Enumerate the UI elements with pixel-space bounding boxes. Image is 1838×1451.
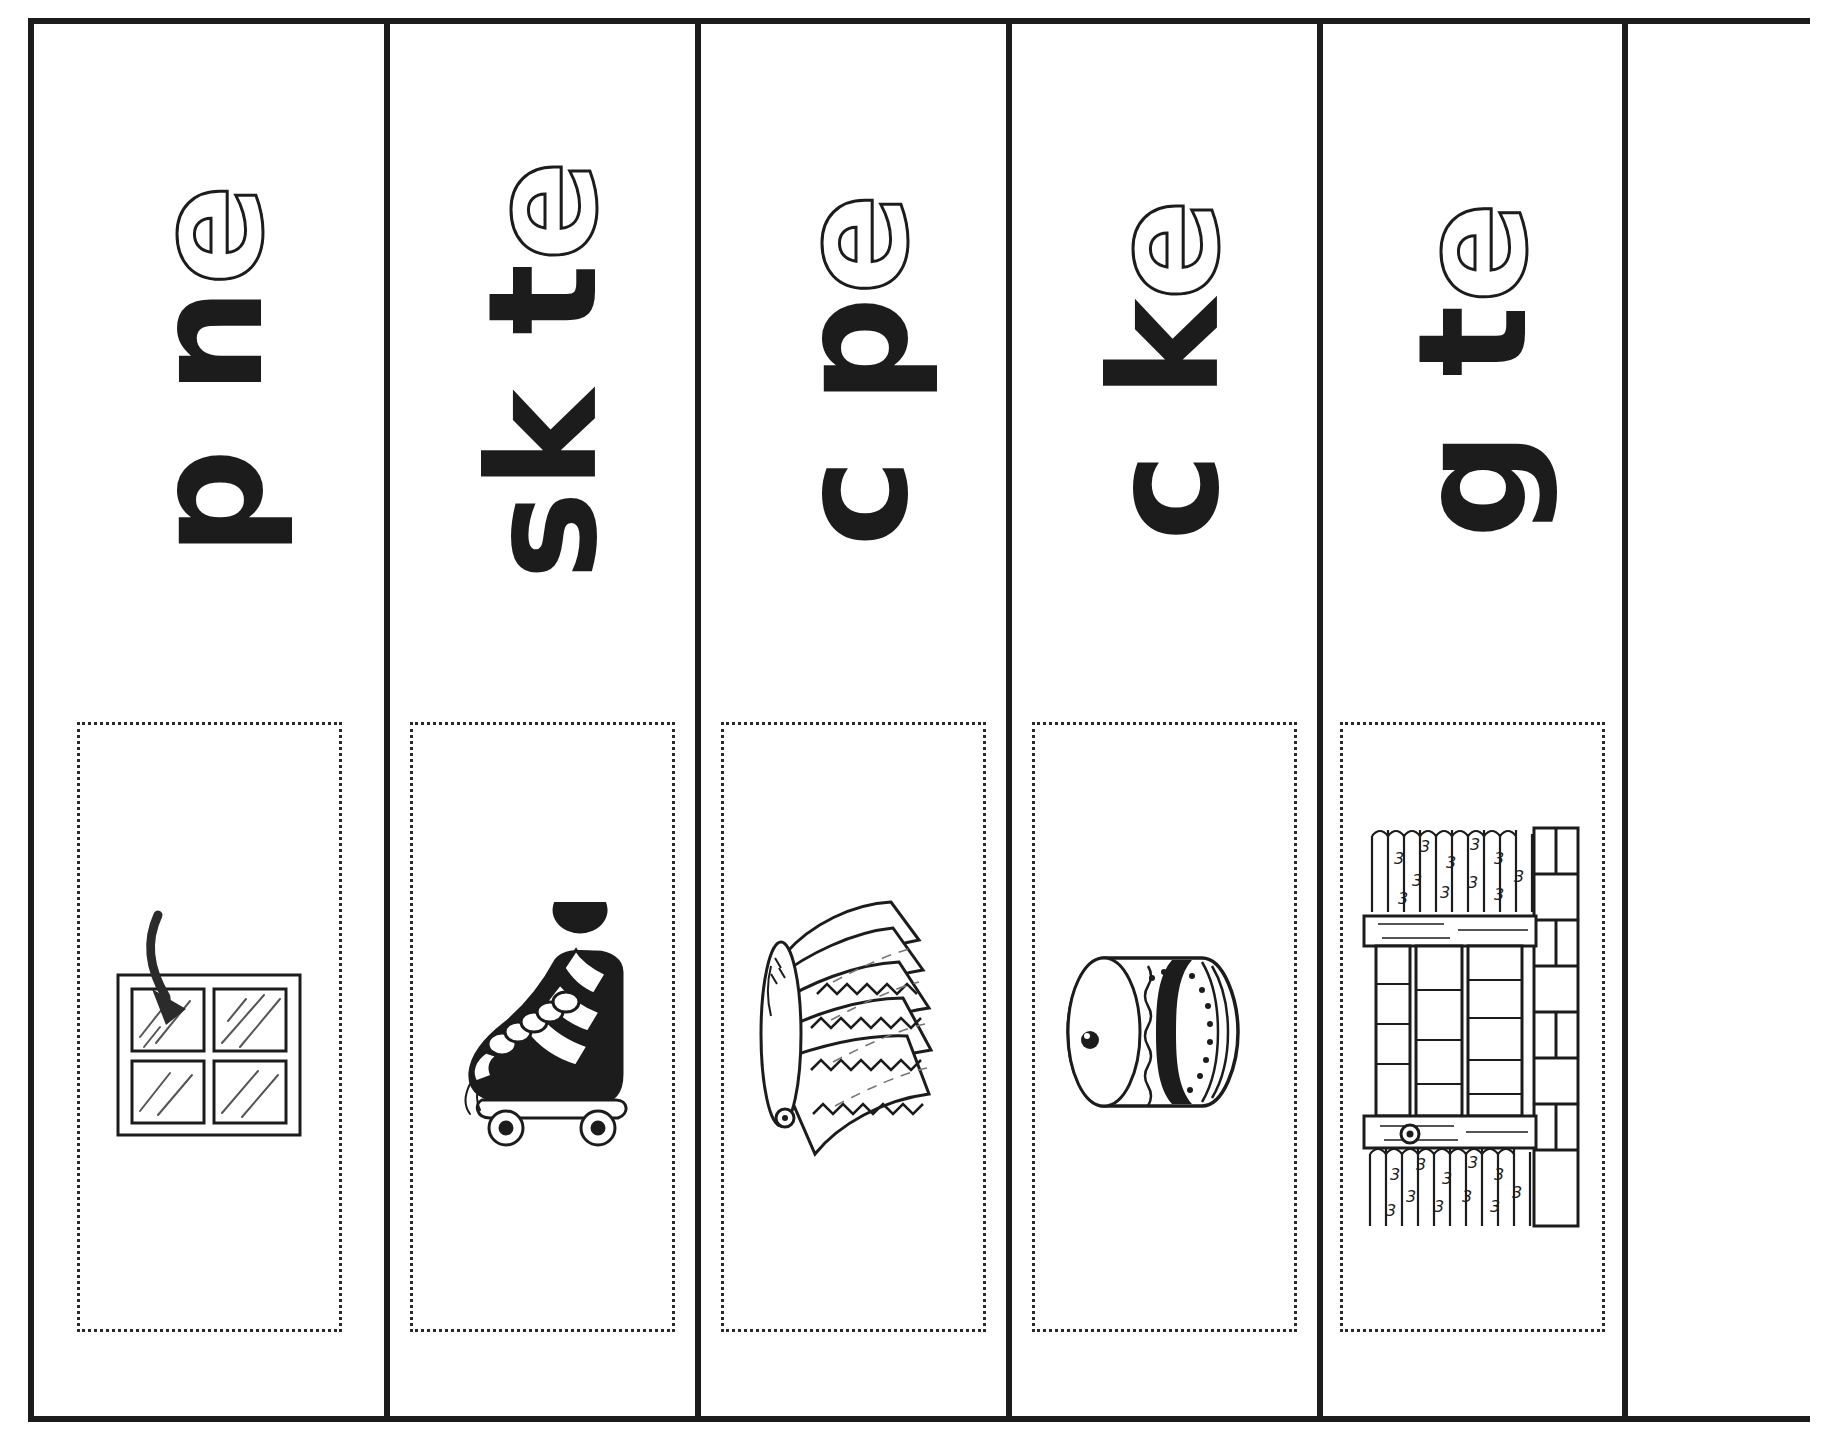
strip-gate[interactable]: gte — [1317, 24, 1628, 1416]
picture-box-skate — [410, 722, 675, 1332]
svg-text:3: 3 — [1494, 885, 1504, 904]
picture-box-gate: 33 33 33 33 33 3 — [1340, 722, 1605, 1332]
strip-skate[interactable]: skte — [384, 24, 695, 1416]
svg-text:3: 3 — [1490, 1197, 1500, 1216]
svg-text:3: 3 — [1494, 849, 1504, 868]
onset-letter: sk — [456, 387, 630, 580]
picture-zone-cake — [1012, 714, 1317, 1416]
letters-skate: skte — [468, 158, 618, 581]
silent-e-letter: e — [122, 182, 296, 286]
letters-zone-skate: skte — [390, 24, 695, 714]
strip-row: pne — [28, 18, 1810, 1422]
middle-letter: k — [1078, 301, 1252, 399]
middle-letter: p — [767, 295, 941, 404]
svg-text:3: 3 — [1494, 1165, 1504, 1184]
window-pane-picture — [94, 897, 324, 1157]
picture-box-pane — [77, 722, 342, 1332]
onset-letter: c — [767, 456, 941, 547]
onset-letter: c — [1078, 450, 1252, 541]
cape-picture — [741, 862, 966, 1192]
svg-text:3: 3 — [1434, 1197, 1444, 1216]
letters-zone-cape: cpe — [701, 24, 1006, 714]
svg-text:3: 3 — [1440, 883, 1450, 902]
svg-text:3: 3 — [1412, 871, 1422, 890]
svg-text:3: 3 — [1468, 1153, 1478, 1172]
strip-cape[interactable]: cpe — [695, 24, 1006, 1416]
picture-zone-gate: 33 33 33 33 33 3 — [1323, 714, 1622, 1416]
svg-text:3: 3 — [1386, 1201, 1396, 1220]
letters-cake: cke — [1090, 197, 1240, 541]
silent-e-letter: e — [1386, 200, 1560, 304]
svg-text:3: 3 — [1416, 1155, 1426, 1174]
strip-cake[interactable]: cke — [1006, 24, 1317, 1416]
letters-zone-cake: cke — [1012, 24, 1317, 714]
svg-text:3: 3 — [1470, 835, 1480, 854]
picture-zone-pane — [34, 714, 384, 1416]
svg-text:3: 3 — [1512, 1183, 1522, 1202]
letters-zone-gate: gte — [1323, 24, 1622, 714]
picture-box-cape — [721, 722, 986, 1332]
letters-cape: cpe — [779, 191, 929, 547]
svg-text:3: 3 — [1442, 1169, 1452, 1188]
strip-pane[interactable]: pne — [28, 24, 384, 1416]
onset-letter: p — [122, 447, 296, 556]
svg-text:3: 3 — [1398, 889, 1408, 908]
onset-letter: g — [1386, 429, 1560, 538]
letters-pane: pne — [134, 182, 284, 556]
silent-e-letter: e — [1078, 197, 1252, 301]
letters-gate: gte — [1398, 200, 1548, 539]
svg-text:3: 3 — [1468, 873, 1478, 892]
silent-e-letter: e — [456, 158, 630, 262]
silent-e-letter: e — [767, 191, 941, 295]
picture-zone-cape — [701, 714, 1006, 1416]
svg-text:3: 3 — [1462, 1187, 1472, 1206]
middle-letter: t — [456, 261, 630, 335]
cake-picture — [1052, 902, 1277, 1152]
svg-text:3: 3 — [1514, 867, 1524, 886]
picture-box-cake — [1032, 722, 1297, 1332]
svg-text:3: 3 — [1420, 837, 1430, 856]
svg-text:3: 3 — [1406, 1187, 1416, 1206]
roller-skate-picture — [430, 902, 655, 1152]
gate-picture: 33 33 33 33 33 3 — [1358, 812, 1588, 1242]
svg-text:3: 3 — [1390, 1165, 1400, 1184]
svg-text:3: 3 — [1394, 849, 1404, 868]
letters-zone-pane: pne — [34, 24, 384, 714]
picture-zone-skate — [390, 714, 695, 1416]
middle-letter: t — [1386, 303, 1560, 377]
svg-text:3: 3 — [1446, 853, 1456, 872]
middle-letter: n — [122, 286, 296, 395]
worksheet-page: pne — [0, 0, 1838, 1451]
